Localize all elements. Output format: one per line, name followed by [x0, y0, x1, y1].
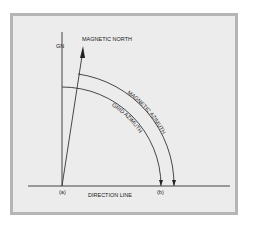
magnetic-azimuth-label: MAGNETIC AZIMUTH [126, 89, 167, 135]
azimuth-diagram: GN MAGNETIC NORTH MAGNETIC AZIMUTH GRID … [0, 0, 253, 229]
grid-azimuth-arc [62, 87, 161, 186]
magnetic-north-line [62, 56, 82, 186]
magnetic-azimuth-arrowhead-icon [172, 180, 176, 186]
grid-azimuth-label: GRID AZIMUTH [111, 102, 144, 134]
point-b-label: (b) [157, 189, 164, 195]
magnetic-north-label: MAGNETIC NORTH [82, 36, 132, 42]
direction-line-label: DIRECTION LINE [88, 192, 132, 198]
grid-north-label: GN [56, 43, 64, 49]
magnetic-azimuth-label-text: MAGNETIC AZIMUTH [126, 89, 167, 135]
grid-azimuth-arrowhead-icon [159, 180, 163, 186]
point-a-label: (a) [59, 189, 66, 195]
magnetic-north-arrowhead-icon [80, 46, 85, 58]
grid-azimuth-label-text: GRID AZIMUTH [111, 102, 144, 134]
